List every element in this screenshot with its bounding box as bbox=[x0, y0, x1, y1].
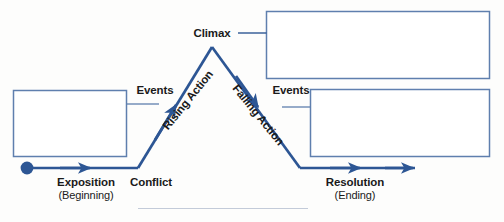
answer-box-climax[interactable] bbox=[267, 12, 490, 79]
plot-diagram-canvas: Exposition (Beginning) Conflict Rising A… bbox=[0, 0, 504, 222]
stage-label-climax: Climax bbox=[193, 27, 230, 39]
events-label-right: Events bbox=[272, 84, 309, 96]
stage-label-resolution: Resolution bbox=[326, 176, 384, 188]
answer-box-resolution[interactable] bbox=[311, 90, 490, 157]
stage-sublabel-exposition: (Beginning) bbox=[58, 190, 113, 202]
events-label-left: Events bbox=[136, 84, 173, 96]
answer-box-exposition[interactable] bbox=[14, 91, 127, 157]
stage-label-exposition: Exposition bbox=[57, 176, 115, 188]
stage-label-conflict: Conflict bbox=[130, 176, 172, 188]
stage-sublabel-resolution: (Ending) bbox=[335, 190, 376, 202]
